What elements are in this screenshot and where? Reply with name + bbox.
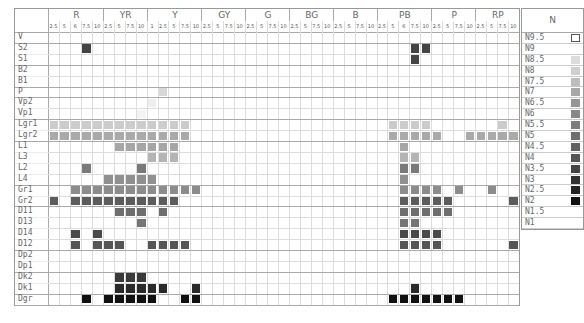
hue-value-label: 7.5: [267, 21, 278, 32]
color-cell: [400, 164, 408, 172]
neutral-level-label: N5.5: [525, 120, 544, 130]
color-cell: [411, 241, 419, 249]
neutral-level-label: N3.5: [525, 164, 544, 174]
neutral-level-label: N1.5: [525, 207, 544, 217]
row-divider: [48, 261, 519, 262]
color-cell: [466, 132, 474, 140]
color-cell: [433, 186, 441, 194]
row-divider: [15, 141, 519, 142]
row-divider: [15, 305, 519, 306]
color-cell: [159, 132, 167, 140]
row-label: L4: [15, 174, 48, 185]
color-cell: [422, 186, 430, 194]
color-cell: [488, 132, 496, 140]
color-cell: [411, 55, 419, 63]
color-cell: [60, 132, 68, 140]
row-divider: [15, 65, 519, 66]
color-cell: [411, 295, 419, 303]
color-cell: [422, 121, 430, 129]
hue-value-label: 7.5: [223, 21, 234, 32]
neutral-swatch: [571, 143, 580, 151]
row-divider: [15, 97, 519, 98]
color-cell: [411, 230, 419, 238]
neutral-level-label: N2: [525, 196, 535, 206]
neutral-swatch: [571, 78, 580, 86]
color-cell: [181, 295, 189, 303]
color-cell: [50, 121, 58, 129]
hue-value-label: 2.5: [377, 21, 388, 32]
hue-value-label: 5: [256, 21, 267, 32]
hue-value-label: 10: [136, 21, 147, 32]
neutral-scale-title: N: [522, 9, 583, 33]
color-cell: [71, 197, 79, 205]
row-label: S2: [15, 43, 48, 54]
color-cell: [159, 88, 167, 96]
color-cell: [170, 153, 178, 161]
color-cell: [411, 208, 419, 216]
color-cell: [82, 44, 90, 52]
neutral-level: N7: [522, 87, 583, 98]
color-cell: [60, 121, 68, 129]
color-cell: [137, 295, 145, 303]
hue-value-label: 7.5: [179, 21, 190, 32]
hue-value-label: 2.5: [333, 21, 344, 32]
color-cell: [411, 219, 419, 227]
color-cell: [137, 121, 145, 129]
color-cell: [93, 197, 101, 205]
hue-value-label: 2.5: [475, 21, 486, 32]
color-cell: [444, 208, 452, 216]
color-cell: [93, 241, 101, 249]
color-cell: [137, 219, 145, 227]
color-cell: [137, 175, 145, 183]
color-cell: [104, 121, 112, 129]
row-label: S1: [15, 54, 48, 65]
color-cell: [115, 143, 123, 151]
color-cell: [137, 143, 145, 151]
neutral-swatch: [571, 110, 580, 118]
color-cell: [181, 132, 189, 140]
hue-value-label: 1: [147, 21, 158, 32]
color-cell: [400, 132, 408, 140]
row-divider: [48, 108, 519, 109]
color-cell: [93, 186, 101, 194]
hue-value-label: 10: [366, 21, 377, 32]
color-cell: [148, 284, 156, 292]
color-cell: [82, 121, 90, 129]
color-cell: [115, 273, 123, 281]
hue-group-label: R: [48, 9, 104, 21]
neutral-level: N4.5: [522, 142, 583, 153]
row-divider: [48, 217, 519, 218]
hue-value-label: 10: [508, 21, 519, 32]
hue-value-label: 5: [300, 21, 311, 32]
color-cell: [389, 295, 397, 303]
color-cell: [82, 186, 90, 194]
color-cell: [148, 175, 156, 183]
color-cell: [104, 175, 112, 183]
color-cell: [159, 241, 167, 249]
neutral-swatch: [571, 56, 580, 64]
color-cell: [433, 295, 441, 303]
hue-value-label: 7.5: [355, 21, 366, 32]
neutral-level: N2.5: [522, 185, 583, 196]
row-label: Dk1: [15, 283, 48, 294]
color-cell: [159, 153, 167, 161]
hue-value-label: 2.5: [289, 21, 300, 32]
color-cell: [104, 241, 112, 249]
hue-group-label: Y: [147, 9, 203, 21]
hue-value-label: 10: [278, 21, 289, 32]
color-cell: [192, 186, 200, 194]
color-cell: [137, 164, 145, 172]
color-cell: [170, 186, 178, 194]
hue-value-label: 10: [464, 21, 475, 32]
color-cell: [181, 241, 189, 249]
hue-value-label: 2.5: [158, 21, 169, 32]
hue-value-label: 7.5: [81, 21, 92, 32]
color-cell: [71, 230, 79, 238]
color-cell: [137, 284, 145, 292]
color-cell: [433, 132, 441, 140]
hue-group-label: YR: [103, 9, 148, 21]
row-divider: [48, 163, 519, 164]
hue-value-label: 5: [168, 21, 179, 32]
color-cell: [444, 197, 452, 205]
row-divider: [15, 250, 519, 251]
